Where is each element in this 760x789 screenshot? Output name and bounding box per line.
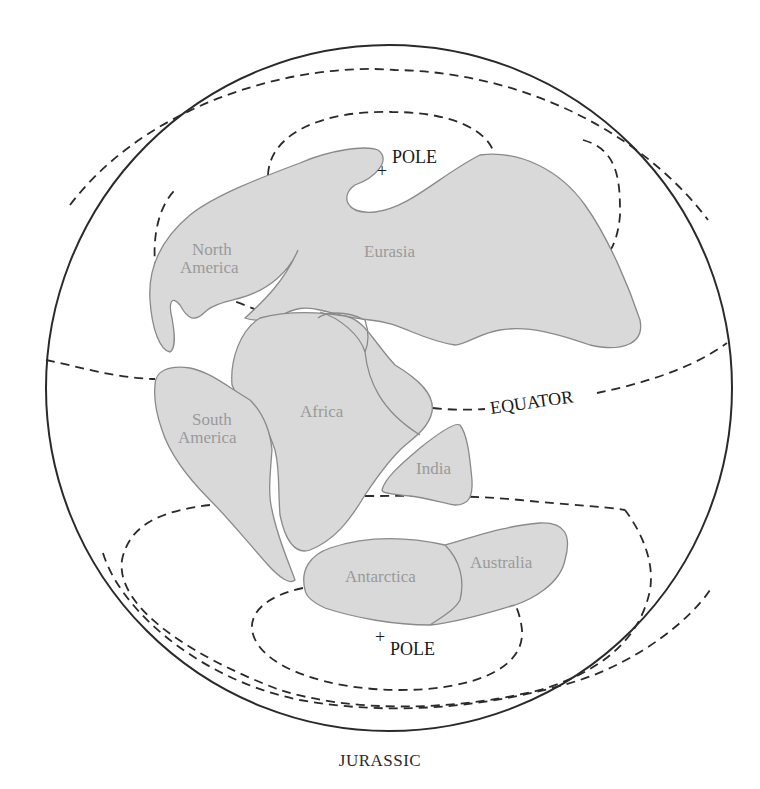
southern-dashed-line-top xyxy=(365,496,625,510)
figure-caption: JURASSIC xyxy=(0,751,760,771)
north-pole-marker: + xyxy=(377,161,387,181)
label-eurasia: Eurasia xyxy=(364,242,415,261)
equator-label: EQUATOR xyxy=(489,387,575,418)
northern-outer-dashed-arc xyxy=(70,69,708,220)
label-north-america-line2: America xyxy=(180,258,239,277)
antarctica-australia-landmass xyxy=(304,523,568,625)
jurassic-globe-figure: North America Eurasia South America Afri… xyxy=(0,0,760,789)
equator-line-left xyxy=(46,360,155,379)
globe-map: North America Eurasia South America Afri… xyxy=(0,0,760,789)
label-africa: Africa xyxy=(300,402,344,421)
south-pole-label: POLE xyxy=(390,639,435,659)
label-north-america-line1: North xyxy=(192,240,232,259)
label-south-america-line2: America xyxy=(178,428,237,447)
north-pole-label: POLE xyxy=(392,147,437,167)
equator-line-mid xyxy=(433,408,485,410)
label-australia: Australia xyxy=(470,553,533,572)
equator-line-right xyxy=(597,343,727,393)
label-antarctica: Antarctica xyxy=(345,567,416,586)
label-india: India xyxy=(416,459,451,478)
label-south-america-line1: South xyxy=(192,410,232,429)
south-pole-marker: + xyxy=(375,627,385,647)
